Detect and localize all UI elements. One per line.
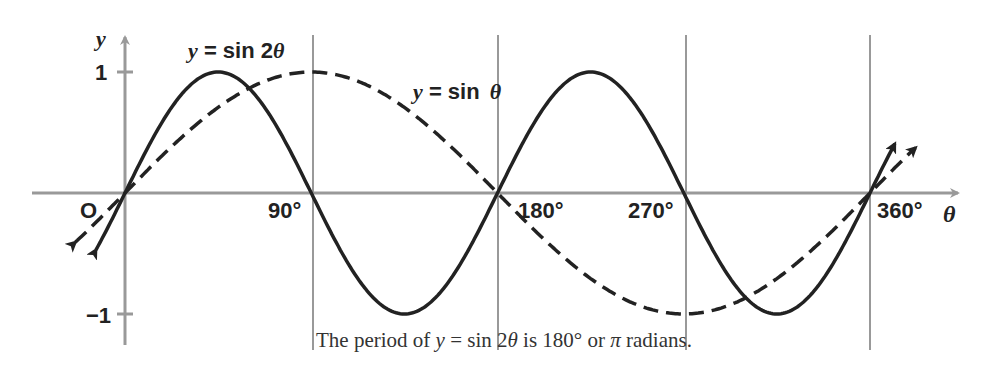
sin-2theta-label: y = sin 2θ [185, 38, 285, 63]
sin-theta-label: y = sin θ [410, 79, 502, 104]
sine-graph: y θ O 1 −1 90° 180° 270° 360° y = sin 2θ… [0, 0, 1000, 370]
tick-label-360: 360° [877, 198, 923, 223]
tick-label-neg1: −1 [86, 303, 111, 328]
tick-label-90: 90° [268, 198, 301, 223]
y-axis-label: y [93, 26, 106, 51]
tick-label-270: 270° [628, 198, 674, 223]
caption: The period of y = sin 2θ is 180° or π ra… [316, 328, 692, 353]
tick-label-1: 1 [95, 60, 107, 85]
tick-label-180: 180° [518, 198, 564, 223]
x-axis-label: θ [943, 201, 956, 227]
origin-label: O [80, 198, 97, 223]
